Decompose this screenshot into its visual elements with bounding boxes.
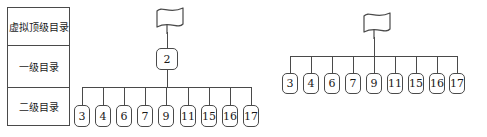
tree-node-leaf: 7 bbox=[345, 73, 361, 94]
tree-node-leaf: 17 bbox=[449, 73, 465, 94]
branch-stub bbox=[437, 57, 438, 73]
branch-stub bbox=[166, 88, 167, 105]
branch-stub bbox=[395, 57, 396, 73]
node-label: 2 bbox=[164, 53, 171, 66]
node-label: 17 bbox=[244, 110, 258, 123]
branch-stub bbox=[457, 57, 458, 73]
branch-stub bbox=[230, 88, 231, 105]
node-label: 7 bbox=[142, 110, 149, 123]
tree-node-leaf: 17 bbox=[243, 105, 259, 127]
legend-row-virtual-top: 虚拟顶级目录 bbox=[8, 8, 69, 45]
node-label: 4 bbox=[100, 110, 107, 123]
node-label: 9 bbox=[163, 110, 170, 123]
tree-node-leaf: 3 bbox=[74, 105, 90, 127]
tree-node-leaf: 15 bbox=[408, 73, 424, 94]
node-label: 15 bbox=[409, 77, 423, 90]
node-label: 9 bbox=[371, 77, 378, 90]
branch-stub bbox=[332, 57, 333, 73]
node-label: 3 bbox=[287, 77, 294, 90]
node-label: 3 bbox=[79, 110, 86, 123]
node-label: 15 bbox=[202, 110, 216, 123]
tree-node-leaf: 4 bbox=[303, 73, 319, 94]
branch-stub bbox=[290, 57, 291, 73]
branch-stub bbox=[416, 57, 417, 73]
flag-icon bbox=[360, 9, 394, 39]
tree-node-leaf: 9 bbox=[158, 105, 174, 127]
node-label: 11 bbox=[181, 110, 195, 123]
node-label: 16 bbox=[223, 110, 237, 123]
node-label: 6 bbox=[121, 110, 128, 123]
tree-node-leaf: 7 bbox=[137, 105, 153, 127]
tree-node-leaf: 11 bbox=[387, 73, 403, 94]
branch-stub bbox=[374, 57, 375, 73]
node-label: 11 bbox=[388, 77, 402, 90]
tree-node-leaf: 16 bbox=[222, 105, 238, 127]
tree-node-leaf: 6 bbox=[324, 73, 340, 94]
node-label: 6 bbox=[329, 77, 336, 90]
root-to-bar-connector bbox=[167, 70, 168, 87]
node-label: 4 bbox=[308, 77, 315, 90]
branch-stub bbox=[251, 88, 252, 105]
tree-node-leaf: 3 bbox=[282, 73, 298, 94]
branch-stub bbox=[145, 88, 146, 105]
legend-row-level2: 二级目录 bbox=[8, 87, 69, 125]
branch-stub bbox=[311, 57, 312, 73]
node-label: 7 bbox=[350, 77, 357, 90]
tree-node-leaf: 6 bbox=[116, 105, 132, 127]
legend-row-level1: 一级目录 bbox=[8, 45, 69, 87]
node-label: 17 bbox=[450, 77, 464, 90]
tree-node-leaf: 15 bbox=[201, 105, 217, 127]
branch-stub bbox=[124, 88, 125, 105]
tree-node-leaf: 16 bbox=[429, 73, 445, 94]
tree-node-root: 2 bbox=[156, 48, 178, 70]
branch-bar bbox=[82, 87, 252, 88]
branch-stub bbox=[209, 88, 210, 105]
branch-stub bbox=[188, 88, 189, 105]
branch-stub bbox=[82, 88, 83, 105]
tree-node-leaf: 4 bbox=[95, 105, 111, 127]
branch-stub bbox=[353, 57, 354, 73]
directory-tree-diagram: 虚拟顶级目录 一级目录 二级目录 2 3 4 6 7 9 11 15 16 17… bbox=[0, 0, 487, 137]
flag-to-bar-connector bbox=[374, 37, 375, 56]
flag-icon bbox=[153, 4, 187, 34]
branch-stub bbox=[103, 88, 104, 105]
tree-node-leaf: 9 bbox=[366, 73, 382, 94]
node-label: 16 bbox=[430, 77, 444, 90]
tree-node-leaf: 11 bbox=[180, 105, 196, 127]
level-legend: 虚拟顶级目录 一级目录 二级目录 bbox=[7, 7, 70, 126]
flag-to-root-connector bbox=[167, 32, 168, 48]
